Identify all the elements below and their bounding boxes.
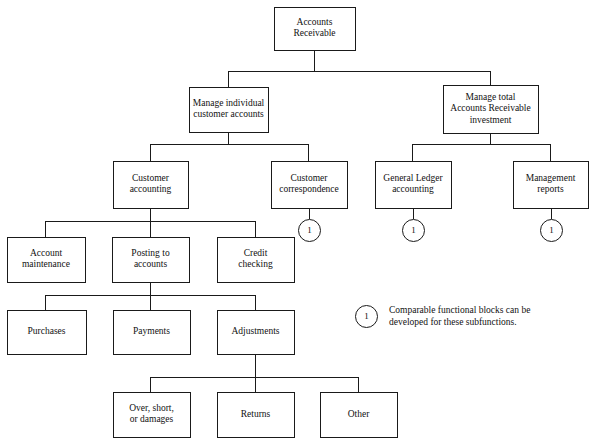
node-payments[interactable]: Payments xyxy=(114,311,191,355)
node-label-manage-individual-customer-accounts: Manage individual xyxy=(193,98,265,108)
marker-number-label: 1 xyxy=(549,225,554,235)
node-other[interactable]: Other xyxy=(321,393,398,438)
legend-text-line: developed for these subfunctions. xyxy=(389,317,517,327)
node-label-accounts-receivable: Accounts xyxy=(297,17,333,27)
node-manage-individual-customer-accounts[interactable]: Manage individualcustomer accounts xyxy=(190,88,269,133)
node-label-accounts-receivable: Receivable xyxy=(293,28,335,38)
node-label-general-ledger-accounting: General Ledger xyxy=(383,173,443,183)
node-label-management-reports: Management xyxy=(526,173,576,183)
legend-marker-number-label: 1 xyxy=(364,311,369,321)
node-purchases[interactable]: Purchases xyxy=(8,311,87,355)
node-general-ledger-accounting[interactable]: General Ledgeraccounting xyxy=(376,162,452,209)
node-label-general-ledger-accounting: accounting xyxy=(392,184,434,194)
node-over-short-or-damages[interactable]: Over, short,or damages xyxy=(114,393,191,438)
node-label-customer-accounting: Customer xyxy=(132,173,170,183)
node-label-payments: Payments xyxy=(133,326,170,336)
node-label-account-maintenance: maintenance xyxy=(22,259,70,269)
node-label-customer-correspondence: correspondence xyxy=(279,184,339,194)
legend-note: 1Comparable functional blocks can bedeve… xyxy=(356,305,531,327)
marker-management-reports: 1 xyxy=(541,208,563,242)
node-label-manage-individual-customer-accounts: customer accounts xyxy=(193,109,264,119)
node-credit-checking[interactable]: Creditchecking xyxy=(218,238,295,283)
node-label-over-short-or-damages: or damages xyxy=(130,414,174,424)
node-label-purchases: Purchases xyxy=(28,326,66,336)
legend-text-line: Comparable functional blocks can be xyxy=(389,305,530,315)
node-boxes-group: AccountsReceivableManage individualcusto… xyxy=(8,8,589,438)
subfunction-markers-group: 111 xyxy=(299,208,563,242)
node-returns[interactable]: Returns xyxy=(218,393,295,438)
node-account-maintenance[interactable]: Accountmaintenance xyxy=(8,238,86,283)
diagram-canvas: AccountsReceivableManage individualcusto… xyxy=(0,0,601,446)
node-customer-accounting[interactable]: Customeraccounting xyxy=(114,162,189,209)
node-accounts-receivable[interactable]: AccountsReceivable xyxy=(275,8,356,51)
node-label-credit-checking: Credit xyxy=(244,248,268,258)
node-manage-total-ar-investment[interactable]: Manage totalAccounts Receivableinvestmen… xyxy=(444,86,539,134)
node-label-manage-total-ar-investment: Accounts Receivable xyxy=(450,103,530,113)
node-label-management-reports: reports xyxy=(537,184,564,194)
node-label-customer-accounting: accounting xyxy=(130,184,172,194)
node-label-returns: Returns xyxy=(241,409,271,419)
node-label-credit-checking: checking xyxy=(238,259,273,269)
node-label-other: Other xyxy=(348,409,370,419)
node-adjustments[interactable]: Adjustments xyxy=(218,311,295,355)
node-label-posting-to-accounts: Posting to xyxy=(131,248,170,258)
node-label-posting-to-accounts: accounts xyxy=(134,259,168,269)
marker-number-label: 1 xyxy=(411,225,416,235)
marker-general-ledger-accounting: 1 xyxy=(403,208,425,242)
marker-customer-correspondence: 1 xyxy=(299,208,321,242)
node-label-manage-total-ar-investment: Manage total xyxy=(466,92,516,102)
node-customer-correspondence[interactable]: Customercorrespondence xyxy=(272,162,348,209)
node-label-account-maintenance: Account xyxy=(30,248,63,258)
node-label-adjustments: Adjustments xyxy=(231,326,279,336)
node-posting-to-accounts[interactable]: Posting toaccounts xyxy=(113,238,190,283)
node-label-over-short-or-damages: Over, short, xyxy=(129,403,174,413)
node-label-customer-correspondence: Customer xyxy=(291,173,329,183)
node-label-manage-total-ar-investment: investment xyxy=(470,115,512,125)
node-management-reports[interactable]: Managementreports xyxy=(514,162,589,209)
functional-decomposition-diagram: AccountsReceivableManage individualcusto… xyxy=(0,0,601,446)
marker-number-label: 1 xyxy=(307,225,312,235)
